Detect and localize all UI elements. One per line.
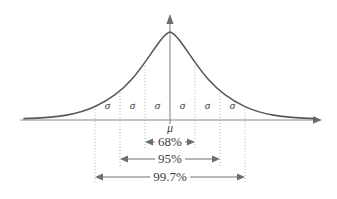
sigma-label-band-1: σ xyxy=(105,99,110,111)
interval-997-right-arrow-icon xyxy=(237,174,245,181)
interval-95-right-arrow-icon xyxy=(212,156,220,163)
interval-95-left-arrow-icon xyxy=(120,156,128,163)
sigma-label-band-6: σ xyxy=(230,99,235,111)
interval-68-right-arrow-icon xyxy=(187,139,195,146)
interval-label-68: 68% xyxy=(155,134,185,150)
sigma-label-band-2: σ xyxy=(130,99,135,111)
interval-label-95: 95% xyxy=(155,151,185,167)
sigma-label-band-4: σ xyxy=(180,99,185,111)
sigma-label-band-3: σ xyxy=(155,99,160,111)
normal-distribution-figure: σ σ σ σ σ σ μ 68% 95% 99.7% xyxy=(0,0,337,199)
horizontal-axis-arrow-icon xyxy=(313,116,322,123)
vertical-axis-arrow-icon xyxy=(166,14,173,24)
sigma-label-band-5: σ xyxy=(205,99,210,111)
interval-label-997: 99.7% xyxy=(150,169,190,185)
interval-997-left-arrow-icon xyxy=(95,174,103,181)
vertical-axis xyxy=(166,14,173,124)
interval-68-left-arrow-icon xyxy=(145,139,153,146)
